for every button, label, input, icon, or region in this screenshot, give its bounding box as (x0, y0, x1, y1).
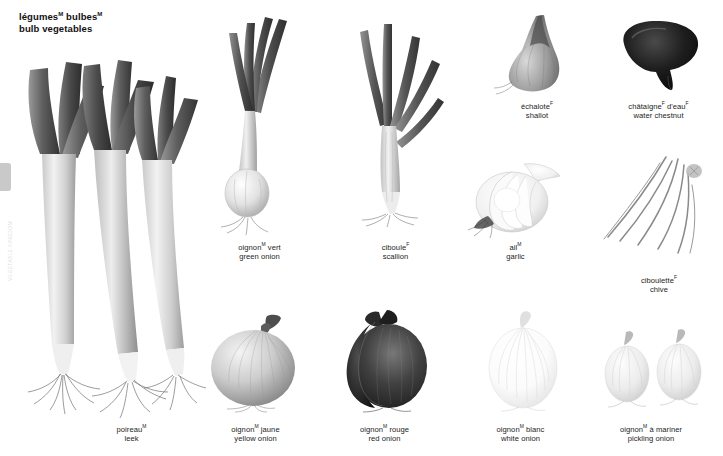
caption-scallion-fr: cibouleF (343, 240, 448, 252)
white-onion-illustration (475, 310, 575, 412)
leek-illustration (8, 58, 208, 418)
caption-scallion-fr-text: ciboule (382, 243, 406, 252)
chive-illustration (598, 145, 713, 265)
caption-red-onion-en: red onion (332, 434, 437, 444)
pickling-onion-illustration (600, 328, 710, 410)
caption-shallot: échaloteF shallot (487, 99, 587, 121)
caption-garlic-en: garlic (463, 252, 568, 262)
caption-white-onion-fr-text2: blanc (526, 425, 544, 434)
caption-green-onion-fr-text2: vert (268, 243, 281, 252)
caption-water-chestnut-fr-text2: d'eau (667, 102, 686, 111)
caption-scallion-fr-sup: F (406, 241, 409, 247)
red-onion-illustration (335, 308, 440, 413)
caption-pickling-onion: oignonM à mariner pickling onion (596, 422, 706, 444)
caption-chive-fr-sup: F (674, 274, 677, 280)
caption-garlic-fr: ailM (463, 240, 568, 252)
caption-shallot-en: shallot (487, 111, 587, 121)
caption-chive-en: chive (604, 285, 714, 295)
caption-shallot-fr-sup: F (550, 100, 553, 106)
caption-green-onion-fr-text: oignon (238, 243, 261, 252)
caption-water-chestnut-fr-text: châtaigne (628, 102, 661, 111)
yellow-onion-illustration (205, 312, 310, 412)
caption-yellow-onion-fr-text2: jaune (261, 425, 280, 434)
title-fr-sup2: M (97, 11, 102, 17)
page-title: légumesM bulbesM bulb vegetables (19, 9, 102, 34)
page-title-english: bulb vegetables (19, 23, 102, 35)
caption-green-onion-fr: oignonM vert (207, 240, 312, 252)
caption-leek: poireauM leek (79, 422, 184, 444)
caption-red-onion-fr-sup: M (383, 423, 387, 429)
caption-water-chestnut-fr-sup2: F (686, 100, 689, 106)
caption-garlic-fr-sup: M (517, 241, 521, 247)
caption-shallot-fr-text: échalote (521, 102, 550, 111)
caption-green-onion-fr-sup: M (261, 241, 265, 247)
caption-chive: cibouletteF chive (604, 273, 714, 295)
caption-garlic: ailM garlic (463, 240, 568, 262)
garlic-illustration (462, 160, 572, 240)
caption-white-onion-fr-text: oignon (497, 425, 520, 434)
scallion-illustration (330, 22, 455, 227)
green-onion-illustration (195, 15, 315, 235)
caption-pickling-onion-fr: oignonM à mariner (596, 422, 706, 434)
caption-chive-fr: cibouletteF (604, 273, 714, 285)
caption-white-onion-fr-sup: M (520, 423, 524, 429)
caption-yellow-onion-fr-text: oignon (231, 425, 254, 434)
caption-pickling-onion-fr-text2: à mariner (649, 425, 682, 434)
caption-leek-en: leek (79, 434, 184, 444)
caption-leek-fr: poireauM (79, 422, 184, 434)
caption-white-onion: oignonM blanc white onion (468, 422, 573, 444)
caption-pickling-onion-en: pickling onion (596, 434, 706, 444)
caption-scallion: cibouleF scallion (343, 240, 448, 262)
shallot-illustration (492, 12, 587, 97)
caption-water-chestnut-en: water chestnut (601, 111, 716, 121)
title-fr-sup1: M (58, 11, 63, 17)
caption-red-onion-fr-text: oignon (360, 425, 383, 434)
caption-water-chestnut-fr-sup: F (662, 100, 665, 106)
caption-shallot-fr: échaloteF (487, 99, 587, 111)
caption-chive-fr-text: ciboulette (641, 276, 674, 285)
caption-water-chestnut-fr: châtaigneF d'eauF (601, 99, 716, 111)
illustration-plate: légumesM bulbesM bulb vegetables VEGETAB… (0, 0, 723, 456)
caption-yellow-onion-fr: oignonM jaune (203, 422, 308, 434)
caption-pickling-onion-fr-sup: M (643, 423, 647, 429)
title-fr-word1: légumes (19, 11, 58, 22)
caption-white-onion-fr: oignonM blanc (468, 422, 573, 434)
water-chestnut-illustration (608, 18, 708, 96)
page-title-french: légumesM bulbesM (19, 9, 102, 23)
caption-leek-fr-text: poireau (117, 425, 143, 434)
caption-scallion-en: scallion (343, 252, 448, 262)
caption-pickling-onion-fr-text: oignon (620, 425, 643, 434)
caption-green-onion-en: green onion (207, 252, 312, 262)
title-fr-word2: bulbes (66, 11, 97, 22)
caption-red-onion: oignonM rouge red onion (332, 422, 437, 444)
caption-yellow-onion-en: yellow onion (203, 434, 308, 444)
caption-water-chestnut: châtaigneF d'eauF water chestnut (601, 99, 716, 121)
caption-leek-fr-sup: M (142, 423, 146, 429)
caption-yellow-onion: oignonM jaune yellow onion (203, 422, 308, 444)
caption-red-onion-fr-text2: rouge (389, 425, 409, 434)
caption-green-onion: oignonM vert green onion (207, 240, 312, 262)
caption-white-onion-en: white onion (468, 434, 573, 444)
caption-yellow-onion-fr-sup: M (254, 423, 258, 429)
caption-red-onion-fr: oignonM rouge (332, 422, 437, 434)
